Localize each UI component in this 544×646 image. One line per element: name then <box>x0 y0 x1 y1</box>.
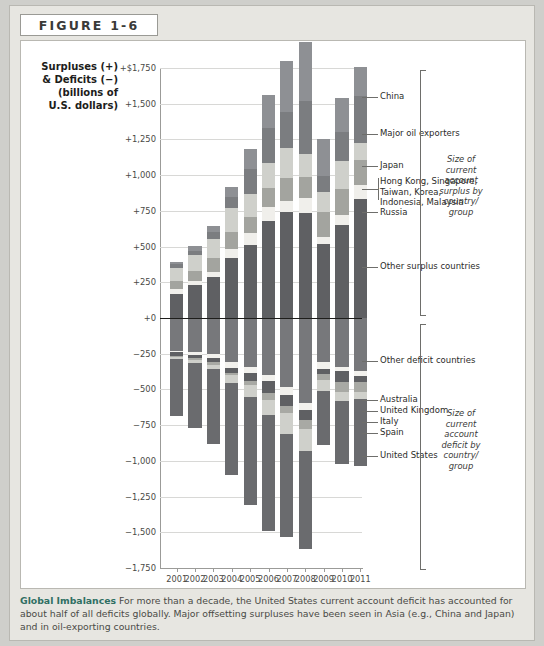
y-tick-label: −1,000 <box>125 456 156 466</box>
bar-segment <box>335 371 348 382</box>
bar-segment <box>207 226 220 233</box>
x-tick <box>269 568 270 572</box>
x-tick <box>360 568 361 572</box>
x-tick <box>250 568 251 572</box>
bar-segment <box>170 359 183 416</box>
bar-segment <box>335 132 348 161</box>
figure-caption: Global Imbalances For more than a decade… <box>20 594 526 634</box>
callout-leader-line <box>362 433 378 434</box>
bar-segment <box>207 369 220 444</box>
bar-segment <box>280 413 293 434</box>
callout-leader-line <box>362 134 378 135</box>
bar-segment <box>335 392 348 401</box>
y-tick-label: +0 <box>144 313 156 323</box>
bar-segment <box>262 221 275 318</box>
bar-segment <box>262 318 275 375</box>
y-tick-label: −750 <box>133 420 156 430</box>
bar-segment <box>299 198 312 213</box>
callout-united-states: United States <box>380 450 438 461</box>
bar-segment <box>354 199 367 318</box>
figure-number-badge: FIGURE 1-6 <box>20 14 158 36</box>
callout-leader-line <box>362 361 378 362</box>
bar-segment <box>207 318 220 354</box>
bar-segment <box>299 318 312 403</box>
callout-other-surplus-countries: Other surplus countries <box>380 261 480 272</box>
bar-segment <box>299 101 312 155</box>
bar-segment <box>244 149 257 168</box>
y-tick-label: +1,000 <box>125 170 156 180</box>
bar-segment <box>317 318 330 362</box>
bar-segment <box>335 318 348 367</box>
figure-container: FIGURE 1-6 Surpluses (+) & Deficits (−) … <box>9 5 535 641</box>
bar-segment <box>354 318 367 371</box>
bar-segment <box>262 207 275 221</box>
bar-segment <box>244 245 257 318</box>
y-tick-label: +750 <box>133 206 156 216</box>
callout-leader-line <box>362 422 378 423</box>
bar-segment <box>262 393 275 400</box>
bar-segment <box>299 403 312 410</box>
bar-segment <box>225 197 238 208</box>
caption-title: Global Imbalances <box>20 595 116 606</box>
bar-segment <box>244 194 257 218</box>
bar-segment <box>317 139 330 176</box>
bar-segment <box>317 391 330 446</box>
bar-segment <box>280 434 293 537</box>
callout-japan: Japan <box>380 160 404 171</box>
callout-leader-line <box>362 97 378 98</box>
bar-segment <box>188 251 201 255</box>
bar-segment <box>299 410 312 420</box>
bar-segment <box>317 244 330 318</box>
bar-segment <box>225 232 238 249</box>
y-axis-tick-labels: +$1,750+1,500+1,250+1,000+750+500+250+0−… <box>102 68 156 568</box>
bar-segment <box>188 246 201 251</box>
bar-segment <box>225 383 238 474</box>
bar-segment <box>244 397 257 505</box>
bar-segment <box>335 189 348 215</box>
bar-segment <box>335 225 348 318</box>
x-tick <box>342 568 343 572</box>
callout-leader-line <box>362 166 378 167</box>
plot-area <box>160 68 362 568</box>
bar-segment <box>280 201 293 212</box>
bar-segment <box>335 401 348 464</box>
y-tick-label: +250 <box>133 277 156 287</box>
bar-segment <box>299 451 312 549</box>
bar-segment <box>225 249 238 258</box>
y-tick-label: −1,500 <box>125 527 156 537</box>
bar-segment <box>188 363 201 429</box>
surplus-brace <box>420 70 428 316</box>
y-tick-label: −1,750 <box>125 563 156 573</box>
deficit-brace <box>420 324 428 570</box>
callout-leader-line <box>362 267 378 268</box>
callout-bracket <box>378 178 379 200</box>
bar-segment <box>188 271 201 281</box>
bar-segment <box>170 264 183 268</box>
x-tick-label: 2011 <box>350 574 371 584</box>
y-tick-label: −1,250 <box>125 492 156 502</box>
bar-segment <box>280 112 293 148</box>
bar-segment <box>317 380 330 391</box>
x-axis-line <box>160 568 363 569</box>
bar-segment <box>262 381 275 393</box>
bar-segment <box>354 185 367 199</box>
callout-russia: Russia <box>380 207 407 218</box>
deficit-brace-label: Size of current account deficit by count… <box>432 408 490 472</box>
bar-segment <box>317 176 330 192</box>
y-tick-label: +500 <box>133 242 156 252</box>
bar-segment <box>225 187 238 197</box>
bar-segment <box>354 382 367 392</box>
bar-segment <box>188 281 201 285</box>
x-tick <box>305 568 306 572</box>
bar-segment <box>299 420 312 429</box>
bar-segment <box>225 258 238 318</box>
callout-leader-line <box>362 189 378 190</box>
bar-segment <box>280 61 293 112</box>
bar-segment <box>262 128 275 163</box>
bar-segment <box>170 318 183 351</box>
bar-segment <box>335 161 348 189</box>
bar-segment <box>354 392 367 399</box>
callout-spain: Spain <box>380 427 404 438</box>
bar-segment <box>170 262 183 264</box>
bar-segment <box>299 213 312 318</box>
